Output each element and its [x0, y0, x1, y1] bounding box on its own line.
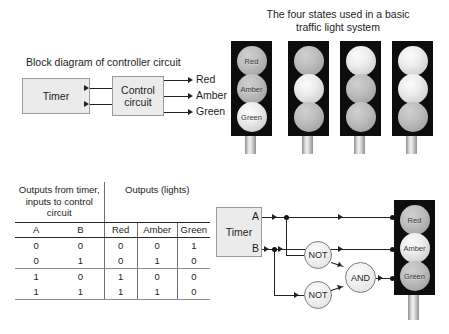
truth-table: Outputs from timer, inputs to control ci…: [15, 182, 210, 300]
control-circuit-block: Control circuit: [112, 76, 164, 116]
table-row: 1 1 1 1 0: [15, 284, 210, 300]
cell-red: 1: [104, 268, 137, 284]
lamp-amber-state-3: [346, 74, 376, 104]
not-gate-1: NOT: [304, 241, 332, 269]
traffic-light-state-2: [288, 41, 329, 136]
cell-a: 0: [15, 253, 57, 269]
lamp-red-state-1: Red: [237, 46, 267, 76]
group-header-outputs: Outputs (lights): [104, 182, 210, 222]
states-heading: The four states used in a basic traffic …: [248, 8, 428, 34]
column-header-b: B: [57, 222, 104, 237]
traffic-light-pole-3: [354, 136, 365, 154]
wire-b-arrow-3: [338, 246, 343, 252]
not-gate-2: NOT: [304, 281, 332, 309]
cell-a: 1: [15, 284, 57, 300]
control-circuit-label-line2: circuit: [124, 96, 151, 108]
column-header-amber: Amber: [137, 222, 177, 237]
control-circuit-label-line1: Control: [121, 84, 155, 96]
lamp-amber-state-4: [398, 74, 428, 104]
cell-green: 0: [177, 268, 210, 284]
column-header-green: Green: [177, 222, 210, 237]
traffic-light-pole-4: [406, 136, 417, 154]
lamp-amber-state-2: [294, 74, 324, 104]
wire-b-branch-horizontal: [274, 295, 304, 296]
wire-b-arrow-1: [264, 246, 269, 252]
group-header-inputs: Outputs from timer, inputs to control ci…: [15, 182, 104, 222]
table-row: 1 0 1 0 0: [15, 268, 210, 284]
lamp-green-state-3: [346, 102, 376, 132]
output-label-amber: Amber: [196, 90, 227, 101]
cell-b: 1: [57, 253, 104, 269]
column-header-red: Red: [104, 222, 137, 237]
wire-b-branch-vertical: [274, 249, 275, 295]
output-wire-amber: [164, 96, 189, 97]
logic-input-a-label: A: [252, 211, 259, 222]
lamp-red-state-3: [346, 46, 376, 76]
cell-b: 1: [57, 284, 104, 300]
logic-lamp-green: Green: [400, 261, 430, 291]
timer-to-control-wire-2: [90, 104, 112, 105]
lamp-green-state-2: [294, 102, 324, 132]
logic-input-b-label: B: [252, 243, 259, 254]
wire-and-arrow: [378, 275, 383, 281]
cell-amber: 1: [137, 284, 177, 300]
lamp-red-state-4: [398, 46, 428, 76]
cell-red: 0: [104, 253, 137, 269]
cell-a: 0: [15, 237, 57, 253]
output-wire-green: [164, 112, 189, 113]
timer-to-control-arrow-2: [84, 101, 89, 107]
logic-traffic-light: Red Amber Green: [394, 200, 435, 295]
cell-green: 0: [177, 253, 210, 269]
wire-a-branch-horizontal: [286, 255, 304, 256]
table-column-header-row: A B Red Amber Green: [15, 222, 210, 237]
timer-block: Timer: [22, 78, 90, 114]
traffic-light-pole-1: [245, 136, 256, 154]
table-row: 0 0 0 0 1: [15, 237, 210, 253]
wire-not2-arrow: [337, 284, 343, 291]
traffic-light-pole-2: [302, 136, 313, 154]
cell-b: 0: [57, 268, 104, 284]
table-row: 0 1 0 1 0: [15, 253, 210, 269]
logic-lamp-amber: Amber: [400, 233, 430, 263]
cell-green: 0: [177, 284, 210, 300]
output-label-red: Red: [196, 74, 215, 85]
output-label-green: Green: [196, 106, 225, 117]
wire-a-main: [262, 217, 395, 218]
cell-amber: 1: [137, 253, 177, 269]
lamp-red-state-2: [294, 46, 324, 76]
output-arrow-red: [188, 77, 193, 83]
cell-red: 1: [104, 284, 137, 300]
cell-red: 0: [104, 237, 137, 253]
cell-a: 1: [15, 268, 57, 284]
traffic-light-state-1: Red Amber Green: [231, 41, 272, 136]
table-group-header-row: Outputs from timer, inputs to control ci…: [15, 182, 210, 222]
output-arrow-green: [188, 109, 193, 115]
traffic-light-state-3: [340, 41, 381, 136]
logic-traffic-light-pole: [408, 295, 419, 320]
timer-to-control-wire-1: [90, 88, 112, 89]
wire-not1-arrow: [337, 262, 343, 269]
cell-green: 1: [177, 237, 210, 253]
output-arrow-amber: [188, 93, 193, 99]
block-diagram-caption: Block diagram of controller circuit: [26, 56, 181, 69]
cell-b: 0: [57, 237, 104, 253]
output-wire-red: [164, 80, 189, 81]
states-heading-line1: The four states used in a basic: [248, 8, 428, 21]
logic-lamp-red: Red: [400, 205, 430, 235]
wire-a-arrow-2: [338, 214, 343, 220]
states-heading-line2: traffic light system: [248, 21, 428, 34]
wire-b-branch-arrow: [294, 292, 299, 298]
cell-amber: 0: [137, 237, 177, 253]
lamp-green-state-1: Green: [237, 102, 267, 132]
timer-to-control-arrow-1: [84, 85, 89, 91]
traffic-light-state-4: [392, 41, 433, 136]
wire-b-arrow-2: [278, 246, 283, 252]
wire-a-arrow-1: [272, 214, 277, 220]
cell-amber: 0: [137, 268, 177, 284]
lamp-amber-state-1: Amber: [237, 74, 267, 104]
column-header-a: A: [15, 222, 57, 237]
lamp-green-state-4: [398, 102, 428, 132]
and-gate: AND: [345, 262, 376, 293]
